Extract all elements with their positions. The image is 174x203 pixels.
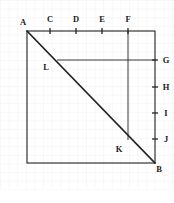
tick-label-j: J [164, 134, 169, 144]
diagram-canvas: CDEF GHIJ ABLK [0, 0, 174, 203]
vertex-label-l: L [43, 62, 49, 72]
tick-label-e: E [99, 14, 105, 24]
tick-label-i: I [164, 108, 168, 118]
vertex-labels: ABLK [20, 17, 162, 174]
geometry-figure: CDEF GHIJ ABLK [0, 0, 174, 203]
vertex-label-a: A [20, 17, 27, 27]
tick-label-f: F [125, 14, 130, 24]
tick-label-g: G [163, 55, 170, 65]
vertex-label-k: K [116, 144, 123, 154]
diagonal-A-to-B [27, 31, 155, 163]
diagonal-line [27, 31, 155, 163]
tick-label-d: D [73, 14, 79, 24]
vertex-label-b: B [156, 164, 162, 174]
tick-label-c: C [47, 14, 53, 24]
inner-segments [57, 31, 155, 140]
tick-label-h: H [163, 82, 170, 92]
